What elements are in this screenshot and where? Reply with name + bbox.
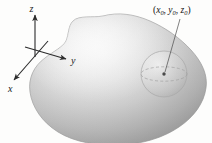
point-coordinates-label: (x0, y0, z0): [153, 5, 191, 16]
x-axis-label: x: [7, 83, 13, 94]
figure-canvas: z y x (x0, y0, z0): [0, 0, 212, 143]
z-axis-label: z: [29, 3, 34, 14]
figure-svg: z y x (x0, y0, z0): [0, 0, 212, 143]
interior-sphere: [141, 51, 187, 97]
point-close-paren: ): [187, 5, 190, 16]
sphere-center-point: [162, 72, 165, 75]
y-axis-label: y: [70, 55, 76, 66]
